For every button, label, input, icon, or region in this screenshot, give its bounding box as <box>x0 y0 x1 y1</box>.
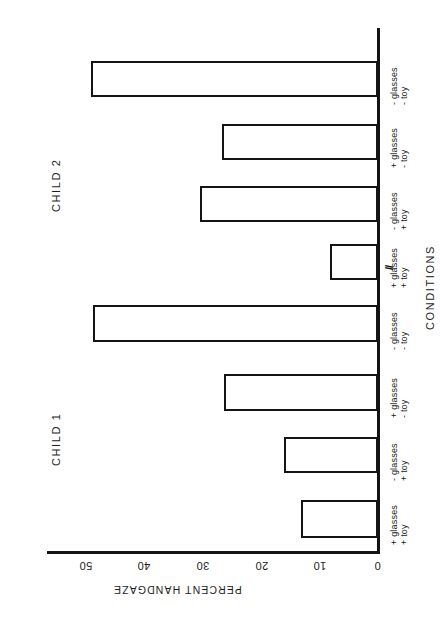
cat-line-2: - toy <box>399 86 409 105</box>
tick-mark-50 <box>85 551 94 553</box>
group-label-child-1: CHILD 1 <box>50 413 62 466</box>
tick-label-40: 40 <box>137 560 150 572</box>
category-label-child2-glasses-no-toy: + glasses- toy <box>389 128 409 168</box>
cat-line-2: + toy <box>399 267 409 288</box>
bar-child2-glasses-no-toy <box>222 124 378 160</box>
category-label-child1-glasses-no-toy: + glasses- toy <box>389 378 409 418</box>
category-axis-line <box>47 551 380 554</box>
tick-mark-20 <box>261 551 270 553</box>
bar-child2-no-glasses-toy <box>200 186 378 222</box>
cat-line-1: + glasses <box>389 248 399 288</box>
bar-child1-no-glasses-no-toy <box>93 305 378 342</box>
cat-line-2: + toy <box>399 524 409 545</box>
tick-mark-10 <box>319 551 328 553</box>
category-label-child2-glasses-toy: + glasses+ toy <box>389 248 409 288</box>
category-label-child2-no-glasses-no-toy: - glasses- toy <box>389 67 409 105</box>
cat-line-1: - glasses <box>389 312 399 350</box>
tick-label-50: 50 <box>79 560 92 572</box>
bar-child1-glasses-toy <box>301 500 378 538</box>
bar-child2-glasses-toy <box>330 244 378 280</box>
value-axis-title: PERCENT HANDGAZE <box>113 584 242 596</box>
category-axis-title: CONDITIONS <box>424 245 436 330</box>
tick-label-0: 0 <box>374 560 381 572</box>
cat-line-1: - glasses <box>389 443 399 481</box>
cat-line-2: - toy <box>399 331 409 350</box>
tick-mark-30 <box>202 551 211 553</box>
cat-line-2: + toy <box>399 460 409 481</box>
cat-line-1: + glasses <box>389 378 399 418</box>
tick-mark-40 <box>143 551 152 553</box>
bar-child1-no-glasses-toy <box>284 437 378 473</box>
cat-line-1: + glasses <box>389 505 399 545</box>
cat-line-2: - toy <box>399 399 409 418</box>
group-label-child-2: CHILD 2 <box>50 159 62 212</box>
bar-child1-glasses-no-toy <box>224 374 378 411</box>
category-label-child1-glasses-toy: + glasses+ toy <box>389 505 409 545</box>
handgaze-bar-chart-figure: // 50 40 30 20 10 0 PERCENT HANDGAZE - g… <box>0 0 440 625</box>
tick-label-20: 20 <box>255 560 268 572</box>
cat-line-1: - glasses <box>389 67 399 105</box>
bar-child2-no-glasses-no-toy <box>91 61 378 97</box>
category-label-child1-no-glasses-no-toy: - glasses- toy <box>389 312 409 350</box>
category-label-child1-no-glasses-toy: - glasses+ toy <box>389 443 409 481</box>
cat-line-1: - glasses <box>389 192 399 230</box>
category-label-child2-no-glasses-toy: - glasses+ toy <box>389 192 409 230</box>
value-axis-line <box>377 28 380 553</box>
cat-line-2: + toy <box>399 209 409 230</box>
tick-label-10: 10 <box>313 560 326 572</box>
cat-line-1: + glasses <box>389 128 399 168</box>
tick-label-30: 30 <box>196 560 209 572</box>
cat-line-2: - toy <box>399 149 409 168</box>
